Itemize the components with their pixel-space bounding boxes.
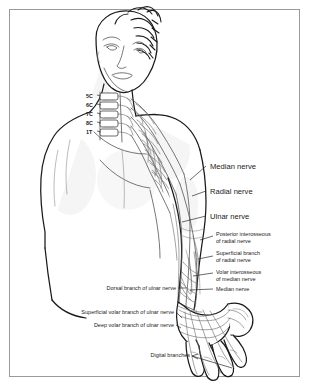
anatomy-illustration: 5C 6C 7C 8C 1T Median nerve Radial nerve… (0, 0, 311, 388)
bottom-labels: Digital branches (151, 352, 191, 358)
spine-label: 6C (86, 102, 93, 108)
label-superficial-branch-radial-line2: of radial nerve (216, 257, 251, 263)
vertebra-group (100, 93, 118, 136)
label-posterior-interosseous-line1: Posterior interosseous (216, 231, 271, 237)
illustration-root: 5C 6C 7C 8C 1T Median nerve Radial nerve… (0, 0, 311, 388)
detail-labels-right: Posterior interosseous of radial nerve S… (216, 231, 271, 292)
label-ulnar-nerve: Ulnar nerve (210, 212, 249, 221)
spine-label: 8C (86, 120, 93, 126)
spine-label: 5C (86, 93, 93, 99)
label-median-nerve-distal: Median nerve (216, 286, 249, 292)
hand (177, 302, 253, 380)
cervical-spine (100, 92, 131, 142)
detail-labels-left: Dorsal branch of ulnar nerve Superficial… (81, 285, 176, 328)
label-volar-interosseous-line1: Volar interosseous (216, 269, 261, 275)
label-median-nerve: Median nerve (210, 162, 256, 171)
label-superficial-volar-branch-ulnar: Superficial volar branch of ulnar nerve (81, 309, 174, 315)
label-volar-interosseous-line2: of median nerve (216, 276, 255, 282)
label-dorsal-branch-ulnar: Dorsal branch of ulnar nerve (107, 285, 176, 291)
spine-label: 7C (86, 111, 93, 117)
label-radial-nerve: Radial nerve (210, 187, 253, 196)
label-digital-branches: Digital branches (151, 352, 191, 358)
main-nerve-labels: Median nerve Radial nerve Ulnar nerve (210, 162, 256, 221)
label-posterior-interosseous-line2: of radial nerve (216, 238, 251, 244)
spine-labels: 5C 6C 7C 8C 1T (86, 93, 93, 135)
label-superficial-branch-radial-line1: Superficial branch (216, 250, 260, 256)
spine-label: 1T (86, 129, 93, 135)
label-deep-volar-branch-ulnar: Deep volar branch of ulnar nerve (94, 322, 174, 328)
